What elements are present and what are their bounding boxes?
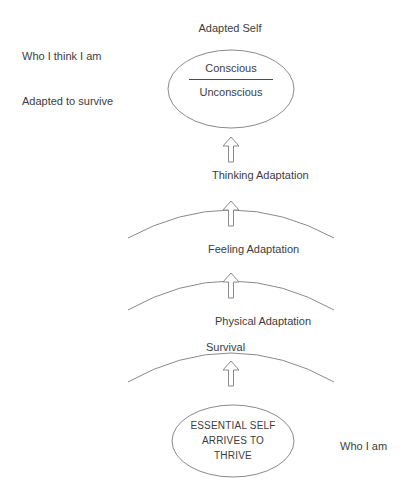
label-feeling-adaptation: Feeling Adaptation (208, 243, 299, 256)
essential-self-line-2: ARRIVES TO (172, 433, 294, 448)
label-adapted-to-survive: Adapted to survive (22, 95, 113, 108)
essential-self-line-1: ESSENTIAL SELF (172, 418, 294, 433)
feeling-adaptation-arc (128, 281, 334, 310)
essential-self-text: ESSENTIAL SELF ARRIVES TO THRIVE (172, 418, 294, 463)
thinking-adaptation-arc (128, 210, 334, 238)
adapted-self-ellipse-content: Conscious Unconscious (168, 50, 294, 128)
label-thinking-adaptation: Thinking Adaptation (212, 169, 309, 182)
label-physical-adaptation: Physical Adaptation (215, 315, 311, 328)
adapted-self-title: Adapted Self (199, 22, 262, 35)
unconscious-label: Unconscious (168, 86, 294, 98)
essential-self-line-3: THRIVE (172, 448, 294, 463)
arrow-physical (223, 361, 239, 386)
label-who-i-think-i-am: Who I think I am (22, 50, 101, 63)
arrow-feeling (223, 273, 239, 298)
consciousness-divider-line (189, 79, 273, 80)
diagram-canvas: Adapted Self Who I think I am Adapted to… (0, 0, 411, 498)
label-who-i-am: Who I am (340, 440, 387, 453)
physical-adaptation-arc (128, 353, 334, 382)
arrow-to-adapted-self (223, 137, 239, 162)
arrow-thinking (223, 201, 239, 226)
conscious-label: Conscious (168, 62, 294, 74)
label-survival: Survival (206, 341, 245, 354)
essential-self-ellipse-content: ESSENTIAL SELF ARRIVES TO THRIVE (172, 405, 294, 478)
